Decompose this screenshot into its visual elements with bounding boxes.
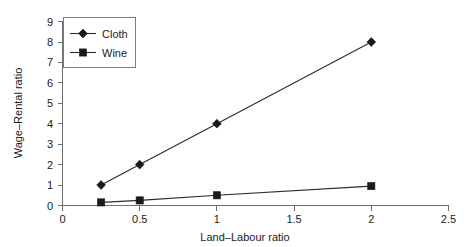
series-cloth	[97, 38, 376, 190]
x-tick-label-1-5: 1.5	[286, 213, 301, 225]
x-axis-title: Land–Labour ratio	[200, 231, 289, 243]
data-point-wine-2	[213, 192, 220, 199]
data-point-wine-1	[136, 197, 143, 204]
y-tick-label-1: 1	[47, 179, 53, 191]
y-tick-label-4: 4	[47, 118, 53, 130]
data-point-cloth-0	[97, 181, 106, 190]
x-tick-label-2: 2	[368, 213, 374, 225]
legend: Cloth Wine	[64, 18, 136, 68]
x-tick-labels: 0 0.5 1 1.5 2 2.5	[59, 213, 456, 225]
y-tick-label-6: 6	[47, 77, 53, 89]
chart-canvas: 0 1 2 3 4 5 6 7 8 9 0 0.5 1 1.5 2 2.	[0, 0, 473, 247]
data-point-cloth-3	[367, 38, 376, 47]
square-marker-icon	[79, 49, 86, 56]
x-tick-marks	[63, 206, 449, 211]
legend-box	[64, 18, 136, 68]
y-tick-label-9: 9	[47, 16, 53, 28]
y-tick-label-8: 8	[47, 36, 53, 48]
x-tick-label-2-5: 2.5	[441, 213, 456, 225]
y-tick-label-3: 3	[47, 138, 53, 150]
y-axis-title: Wage–Rental ratio	[12, 68, 24, 159]
x-tick-label-0: 0	[59, 213, 65, 225]
legend-label-cloth: Cloth	[102, 28, 128, 40]
data-point-cloth-1	[135, 160, 144, 169]
y-tick-label-5: 5	[47, 97, 53, 109]
legend-label-wine: Wine	[102, 47, 127, 59]
x-tick-label-0-5: 0.5	[132, 213, 147, 225]
y-tick-marks	[58, 22, 63, 206]
data-point-wine-3	[368, 183, 375, 190]
x-tick-label-1: 1	[214, 213, 220, 225]
series-wine	[98, 183, 375, 207]
y-tick-label-2: 2	[47, 159, 53, 171]
data-point-cloth-2	[213, 119, 222, 128]
y-tick-label-7: 7	[47, 56, 53, 68]
y-tick-labels: 0 1 2 3 4 5 6 7 8 9	[47, 16, 53, 212]
line-chart: 0 1 2 3 4 5 6 7 8 9 0 0.5 1 1.5 2 2.	[0, 0, 473, 247]
data-point-wine-0	[98, 199, 105, 206]
y-tick-label-0: 0	[47, 200, 53, 212]
